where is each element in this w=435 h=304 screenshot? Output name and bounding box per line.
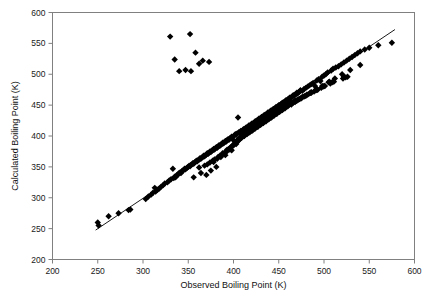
y-tick-label: 600 [31, 8, 45, 18]
x-tick-label: 500 [317, 266, 331, 276]
y-tick-label: 400 [31, 131, 45, 141]
y-tick-label: 200 [31, 255, 45, 265]
x-tick-label: 350 [181, 266, 195, 276]
x-axis-tick-labels: 200250300350400450500550600 [45, 266, 421, 276]
y-axis-title: Calculated Boiling Point (K) [10, 81, 20, 191]
y-tick-label: 550 [31, 38, 45, 48]
x-tick-label: 600 [407, 266, 421, 276]
y-tick-label: 300 [31, 193, 45, 203]
x-tick-label: 400 [226, 266, 240, 276]
x-tick-label: 300 [136, 266, 150, 276]
x-tick-label: 550 [362, 266, 376, 276]
chart-canvas: 200250300350400450500550600 200250300350… [0, 0, 435, 304]
y-tick-label: 500 [31, 69, 45, 79]
x-axis-title: Observed Boiling Point (K) [180, 280, 286, 290]
y-axis-tick-labels: 200250300350400450500550600 [31, 8, 45, 265]
y-tick-label: 450 [31, 100, 45, 110]
y-tick-label: 350 [31, 162, 45, 172]
y-tick-label: 250 [31, 224, 45, 234]
x-tick-label: 450 [272, 266, 286, 276]
scatter-plot-figure: 200250300350400450500550600 200250300350… [0, 0, 435, 304]
x-tick-label: 250 [91, 266, 105, 276]
x-tick-label: 200 [45, 266, 59, 276]
